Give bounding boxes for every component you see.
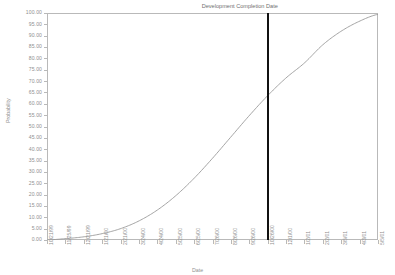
- y-axis-tick-label: 85.00: [29, 44, 42, 49]
- cumulative-probability-curve: [47, 13, 378, 240]
- y-axis-tick-label: 80.00: [29, 56, 42, 61]
- probability-chart: 0.005.0010.0015.0020.0025.0030.0035.0040…: [0, 0, 395, 275]
- y-axis-tick-label: 90.00: [29, 33, 42, 38]
- development-completion-date-label: Development Completion Date: [202, 4, 278, 10]
- y-axis-title: Probability: [6, 81, 11, 141]
- y-axis-tick-label: 60.00: [29, 101, 42, 106]
- y-axis-tick-label: 45.00: [29, 135, 42, 140]
- y-axis-tick-label: 40.00: [29, 147, 42, 152]
- y-axis-tick-label: 75.00: [29, 67, 42, 72]
- y-axis-tick-label: 65.00: [29, 90, 42, 95]
- y-axis-tick-label: 10.00: [29, 215, 42, 220]
- y-axis-tick-label: 5.00: [32, 226, 42, 231]
- x-axis-title: Date: [0, 268, 395, 273]
- y-axis-tick-label: 20.00: [29, 192, 42, 197]
- y-axis-tick-label: 35.00: [29, 158, 42, 163]
- y-axis-tick-label: 25.00: [29, 181, 42, 186]
- y-axis-tick-label: 70.00: [29, 79, 42, 84]
- x-axis-tick-label: 5/5/01: [380, 231, 385, 245]
- y-axis-tick-label: 100.00: [26, 10, 42, 15]
- development-completion-date-line: [267, 13, 269, 240]
- y-axis-tick-label: 15.00: [29, 203, 42, 208]
- y-axis-tick-label: 55.00: [29, 113, 42, 118]
- y-axis-tick-label: 95.00: [29, 22, 42, 27]
- y-axis-tick-label: 30.00: [29, 169, 42, 174]
- y-axis-tick-label: 50.00: [29, 124, 42, 129]
